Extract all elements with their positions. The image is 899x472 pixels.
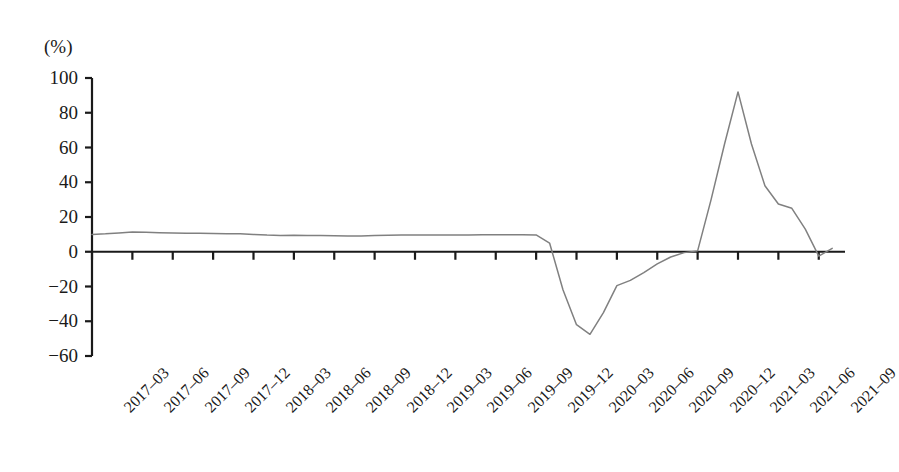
data-line-1 xyxy=(92,92,832,334)
data-series-layer xyxy=(92,92,832,334)
